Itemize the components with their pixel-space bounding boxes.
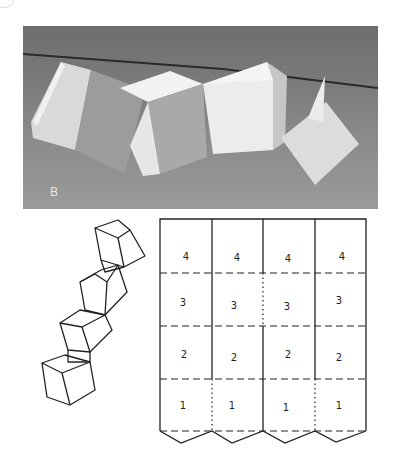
corner-mark (0, 0, 14, 8)
cell-label: 2 (231, 352, 237, 363)
cell-label: 1 (336, 400, 342, 411)
cube-chain-sketch (0, 210, 150, 410)
cell-label: 2 (181, 349, 187, 360)
cell-label: 2 (336, 352, 342, 363)
cell-label: 1 (180, 400, 186, 411)
cube-chain-photo: B (23, 26, 378, 209)
cell-label: 3 (180, 297, 186, 308)
cell-label: 4 (339, 251, 345, 262)
net-tabs (160, 431, 366, 443)
photo-scene (23, 26, 378, 209)
cell-label: 3 (336, 295, 342, 306)
cell-label: 3 (284, 301, 290, 312)
cell-label: 4 (183, 251, 189, 262)
cell-label: 4 (285, 253, 291, 264)
cell-label: 3 (231, 300, 237, 311)
cell-label: 4 (234, 252, 240, 263)
cell-label: 2 (285, 349, 291, 360)
cell-label: 1 (229, 400, 235, 411)
cell-label: 1 (283, 402, 289, 413)
cube-chain-net: 4 4 4 4 3 3 3 3 2 2 2 2 1 1 1 1 (150, 210, 393, 461)
photo-label: B (50, 185, 58, 199)
